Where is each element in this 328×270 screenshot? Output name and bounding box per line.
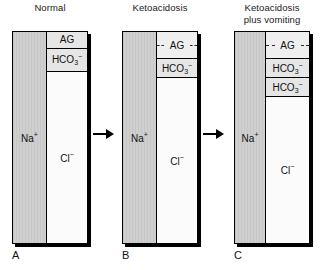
panel-c-hco3-charge-2: −	[299, 81, 303, 88]
panel-c-title-line-1: Ketoacidosis	[220, 2, 324, 14]
panel-c-bicarbonate-segment-1: HCO3−	[266, 59, 309, 78]
panel-b-title: Ketoacidosis	[110, 2, 210, 14]
panel-a-hco3-text: HCO	[52, 54, 74, 65]
panel-a-anion-column: AG HCO3− Cl−	[47, 32, 87, 243]
panel-a-title-line-1: Normal	[0, 2, 100, 14]
anion-gap-figure: Normal Na+ AG HCO3− Cl− A	[0, 0, 328, 270]
arrow-a-to-b-icon	[93, 128, 115, 140]
panel-a-chloride-label: Cl−	[47, 152, 87, 163]
panel-b-sodium-charge: +	[144, 131, 148, 138]
panel-c-bicarbonate-segment-2: HCO3−	[266, 78, 309, 97]
panel-c-cation-column: Na+	[235, 32, 266, 243]
panel-c-hco3-sub-2: 3	[295, 87, 299, 94]
panel-a-hco3-sub: 3	[74, 59, 78, 66]
panel-a-sodium-charge: +	[34, 131, 38, 138]
dash-right	[190, 45, 197, 46]
panel-c-hco3-sub-1: 3	[295, 68, 299, 75]
panel-b-cation-column: Na+	[123, 32, 157, 243]
panel-c-sodium-text: Na	[242, 132, 255, 143]
dash-left	[157, 45, 164, 46]
arrow-head	[216, 129, 224, 139]
panel-c-bar: Na+ AG HCO3− HCO3−	[234, 31, 310, 244]
panel-b-hco3-text: HCO	[162, 63, 184, 74]
dash-right	[301, 45, 309, 46]
panel-b-title-line-1: Ketoacidosis	[110, 2, 210, 14]
panel-c-hco3-label-1: HCO3−	[272, 63, 302, 74]
arrow-b-to-c-icon	[203, 128, 225, 140]
panel-b-chloride-label: Cl−	[157, 155, 197, 166]
panel-c-ag-label: AG	[277, 40, 297, 51]
panel-c-hco3-label-2: HCO3−	[272, 82, 302, 93]
panel-c-cl-charge: −	[290, 163, 294, 170]
panel-a-hco3-label: HCO3−	[52, 54, 82, 65]
panel-a-bicarbonate-segment: HCO3−	[47, 49, 87, 72]
panel-c-sodium-label: Na+	[235, 132, 265, 143]
panel-b-sodium-label: Na+	[123, 132, 156, 143]
panel-a-chloride-segment: Cl−	[47, 72, 87, 243]
panel-c-chloride-label: Cl−	[266, 165, 309, 176]
panel-b-cl-charge: −	[180, 154, 184, 161]
panel-c-title-line-2: plus vomiting	[220, 14, 324, 26]
arrow-head	[106, 129, 114, 139]
panel-c-hco3-charge-1: −	[299, 62, 303, 69]
panel-b-chloride-segment: Cl−	[157, 78, 197, 243]
panel-b-hco3-label: HCO3−	[162, 63, 192, 74]
panel-c-anion-column: AG HCO3− HCO3− Cl−	[266, 32, 309, 243]
panel-c-hco3-text-2: HCO	[272, 82, 294, 93]
panel-c-sodium-charge: +	[254, 131, 258, 138]
panel-c-hco3-text-1: HCO	[272, 63, 294, 74]
panel-b-anion-gap-segment: AG	[157, 32, 197, 59]
panel-a-sodium-text: Na	[21, 132, 34, 143]
dash-left	[266, 45, 274, 46]
panel-a-cl-text: Cl	[60, 152, 69, 163]
panel-b-anion-column: AG HCO3− Cl−	[157, 32, 197, 243]
panel-c-title: Ketoacidosis plus vomiting	[220, 2, 324, 25]
panel-b-hco3-sub: 3	[184, 68, 188, 75]
panel-a-bar: Na+ AG HCO3− Cl−	[12, 31, 88, 244]
panel-a-title: Normal	[0, 2, 100, 14]
panel-a-anion-gap-segment: AG	[47, 32, 87, 49]
panel-b-sodium-text: Na	[131, 132, 144, 143]
panel-a-letter: A	[12, 249, 19, 261]
panel-a-sodium-label: Na+	[13, 132, 46, 143]
panel-a-cation-column: Na+	[13, 32, 47, 243]
panel-a-ag-label: AG	[57, 34, 77, 45]
panel-b-ag-label: AG	[167, 40, 187, 51]
panel-b-letter: B	[122, 249, 129, 261]
panel-c-chloride-segment: Cl−	[266, 97, 309, 243]
panel-a-hco3-charge: −	[78, 53, 82, 60]
panel-b-bicarbonate-segment: HCO3−	[157, 59, 197, 78]
panel-b-hco3-charge: −	[188, 62, 192, 69]
panel-a-cl-charge: −	[70, 151, 74, 158]
panel-c-anion-gap-segment: AG	[266, 32, 309, 59]
panel-c-letter: C	[234, 249, 242, 261]
panel-b-cl-text: Cl	[170, 155, 179, 166]
panel-b-bar: Na+ AG HCO3− Cl−	[122, 31, 198, 244]
panel-c-cl-text: Cl	[281, 165, 290, 176]
